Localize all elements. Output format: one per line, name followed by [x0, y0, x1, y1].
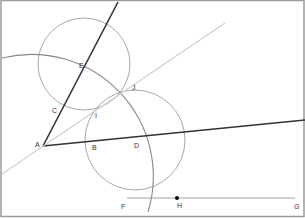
point-label-h: H — [177, 202, 182, 209]
point-h-handle[interactable] — [175, 196, 179, 200]
point-label-f: F — [121, 203, 125, 210]
point-label-e: E — [79, 62, 84, 69]
point-label-a: A — [35, 141, 40, 148]
point-label-c: C — [52, 107, 57, 114]
canvas-frame — [1, 1, 304, 217]
point-label-g: G — [294, 203, 299, 210]
point-label-d: D — [134, 142, 139, 149]
geometry-canvas[interactable]: ABCDEFGHIJ — [0, 0, 305, 218]
point-label-j: J — [132, 84, 136, 91]
point-label-b: B — [92, 144, 97, 151]
point-label-i: I — [95, 112, 97, 119]
